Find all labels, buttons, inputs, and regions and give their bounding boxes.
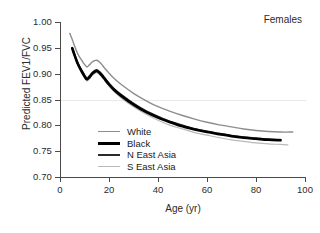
legend-item-white: White xyxy=(98,126,176,138)
legend-item-n-east-asia: N East Asia xyxy=(98,149,176,161)
legend-label: S East Asia xyxy=(127,161,176,173)
legend-label: Black xyxy=(127,138,150,150)
legend-label: White xyxy=(127,126,151,138)
legend-line-icon xyxy=(98,138,120,150)
legend-item-s-east-asia: S East Asia xyxy=(98,161,176,173)
legend-line-icon xyxy=(98,126,120,138)
series-curves xyxy=(0,0,320,233)
series-line-white xyxy=(70,33,293,132)
legend-line-icon xyxy=(98,161,120,173)
chart-figure: 1.000.950.900.850.800.750.70 02040608010… xyxy=(0,0,320,233)
x-axis-label: Age (yr) xyxy=(60,203,306,214)
legend-label: N East Asia xyxy=(127,149,176,161)
legend-item-black: Black xyxy=(98,138,176,150)
y-axis-label: Predicted FEV1/FVC xyxy=(21,4,32,164)
legend-line-icon xyxy=(98,149,120,161)
panel-title: Females xyxy=(264,14,302,25)
legend: WhiteBlackN East AsiaS East Asia xyxy=(98,126,176,172)
